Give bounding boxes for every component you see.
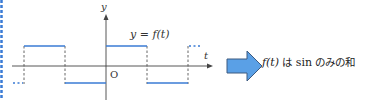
figure: y t O y = f(t) f(t) は sin のみの和 (0, 0, 374, 100)
y-axis-label: y (101, 1, 107, 12)
caption-rest: のみの和 (312, 56, 355, 68)
caption-particle: は (279, 56, 296, 68)
t-axis-arrowhead-icon (207, 64, 213, 69)
caption-sin: sin (296, 56, 312, 69)
function-label: y = f(t) (130, 28, 170, 41)
square-wave-graph (0, 0, 374, 100)
origin-label: O (110, 69, 118, 80)
y-axis-arrowhead-icon (104, 14, 109, 20)
implies-arrow-icon (227, 51, 262, 81)
caption: f(t) は sin のみの和 (262, 54, 355, 69)
caption-function: f(t) (262, 56, 279, 69)
t-axis-label: t (204, 50, 208, 61)
signal-continuation (13, 46, 202, 83)
